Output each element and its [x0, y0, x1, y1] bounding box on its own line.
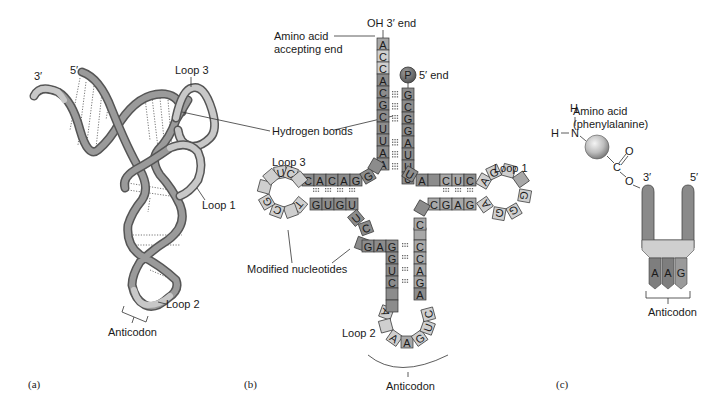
t-loop-nt-4: G: [517, 189, 531, 203]
svg-text:A: A: [379, 39, 387, 51]
panel-b-loop1-label: Loop 1: [494, 162, 528, 174]
anticodon-base-2: A: [664, 267, 672, 279]
anticodon-stem-right-nt-4: A: [414, 288, 426, 301]
svg-text:A: A: [416, 289, 424, 301]
panel-a-loop1-label: Loop 1: [202, 199, 236, 211]
hydrogen-bonds-label: Hydrogen bonds: [272, 125, 353, 137]
svg-text:A: A: [418, 175, 426, 187]
panel-a-3d-structure: 3′ 5′ Loop 3 Loop 1 Loop 2 Anticodon (a): [28, 64, 236, 391]
t-loop-nt-6: G: [492, 206, 506, 220]
acceptor-5prime-nt-5: U: [402, 148, 414, 161]
t-arm-top-nt-2: C: [440, 174, 452, 187]
anticodon-stem-right-nt-0: C: [414, 240, 426, 253]
anticodon-stem-left-nt-4: [386, 288, 398, 300]
amino-acid-label-2: (phenylalanine): [573, 118, 648, 130]
t-arm-bottom-nt-1: G: [440, 198, 452, 211]
svg-text:U: U: [348, 199, 356, 211]
anticodon-stem-right-nt-3: G: [414, 276, 426, 289]
anticodon-loop-nt-3: A: [401, 336, 413, 349]
d-arm-top-nt-4: G: [350, 174, 362, 187]
anticodon-loop-nt-6: C: [421, 307, 436, 322]
svg-text:A: A: [416, 265, 424, 277]
d-arm-bottom-nt-1: U: [322, 198, 334, 211]
panel-a-loop3-label: Loop 3: [175, 64, 209, 76]
phosphate-label: P: [404, 69, 411, 81]
acceptor-5prime-nt-0: G: [402, 88, 414, 101]
acceptor-5prime-nt-3: G: [402, 124, 414, 137]
d-arm-bottom-nt-0: G: [310, 198, 322, 211]
panel-b-cloverleaf: ACCACGCUUAAGCGGAUUUCACAGGGUGUUCTCGACUCUC…: [257, 38, 531, 349]
svg-text:G: G: [466, 199, 475, 211]
amino-acid-sphere: [585, 135, 609, 159]
t-loop-nt-7: A: [477, 196, 494, 213]
t-arm-top-nt-3: U: [452, 174, 464, 187]
trna-body-shape: [642, 185, 694, 248]
panel-b-anticodon-label: Anticodon: [386, 380, 435, 392]
variable-nt-g: G: [362, 240, 374, 253]
svg-text:G: G: [312, 199, 321, 211]
anticodon-stem-left-bottom: [386, 300, 398, 312]
atom-h-top: H: [570, 102, 578, 114]
d-arm-bottom-nt-2: G: [334, 198, 346, 211]
panel-a-label: (a): [28, 378, 41, 391]
svg-text:U: U: [404, 149, 412, 161]
svg-text:C: C: [379, 63, 387, 75]
t-arm-bottom-nt-0: C: [428, 198, 440, 211]
panel-c-anticodon-label: Anticodon: [648, 306, 697, 318]
anticodon-stem-left-nt-0: G: [386, 240, 398, 253]
svg-text:C: C: [328, 175, 336, 187]
amino-acid-accepting-end-label-1: Amino acid: [274, 30, 328, 42]
svg-text:G: G: [442, 199, 451, 211]
svg-text:C: C: [379, 51, 387, 63]
svg-text:G: G: [507, 203, 520, 218]
svg-text:U: U: [388, 265, 396, 277]
acceptor-5prime-nt-2: G: [402, 112, 414, 125]
svg-text:U: U: [454, 175, 462, 187]
svg-text:G: G: [404, 113, 413, 125]
svg-text:A: A: [404, 137, 412, 149]
svg-text:G: G: [413, 331, 427, 346]
svg-text:A: A: [454, 199, 462, 211]
panel-a-5prime-label: 5′: [70, 64, 78, 76]
acceptor-3prime-nt-4: C: [377, 86, 389, 99]
atom-n: N: [571, 127, 579, 139]
anticodon-stem-left-nt-2: U: [386, 264, 398, 277]
trna-figure: 3′ 5′ Loop 3 Loop 1 Loop 2 Anticodon (a)…: [0, 0, 725, 410]
anticodon-loop-nt-2: A: [386, 330, 403, 347]
t-arm-bottom-nt-3: G: [464, 198, 476, 211]
acceptor-3prime-nt-5: G: [377, 98, 389, 111]
atom-h-left: H: [551, 127, 559, 139]
acceptor-3prime-nt-0: A: [377, 38, 389, 51]
svg-text:G: G: [379, 99, 388, 111]
svg-text:C: C: [442, 175, 450, 187]
panel-b-loop3-label: Loop 3: [272, 156, 306, 168]
svg-text:G: G: [336, 199, 345, 211]
amino-acid-accepting-end-label-2: accepting end: [274, 43, 343, 55]
acceptor-3prime-nt-3: A: [377, 74, 389, 87]
svg-text:A: A: [316, 175, 324, 187]
svg-text:C: C: [379, 87, 387, 99]
panel-c-3prime-label: 3′: [643, 171, 651, 183]
anticodon-loop-nt-1: [378, 318, 393, 333]
svg-text:C: C: [416, 253, 424, 265]
atom-o-double: O: [625, 145, 634, 157]
t-arm-bottom-nt-2: A: [452, 198, 464, 211]
variable-nt-a: A: [374, 240, 386, 253]
anticodon-stem-right-nt-1: C: [414, 252, 426, 265]
amino-acid-label-1: Amino acid: [573, 105, 627, 117]
anticodon-stem-left-nt-3: C: [386, 276, 398, 289]
acceptor-3prime-nt-7: U: [377, 122, 389, 135]
svg-text:A: A: [340, 175, 348, 187]
anticodon-stem-right-nt-2: A: [414, 264, 426, 277]
svg-text:G: G: [364, 241, 373, 253]
svg-text:U: U: [379, 135, 387, 147]
panel-a-loop2-label: Loop 2: [166, 298, 200, 310]
acceptor-3prime-nt-1: C: [377, 50, 389, 63]
svg-text:C: C: [404, 101, 412, 113]
panel-b-loop2-label: Loop 2: [342, 327, 376, 339]
acceptor-5prime-nt-1: C: [402, 100, 414, 113]
variable-nt-c: C: [358, 220, 374, 236]
panel-c-label: (c): [556, 378, 569, 391]
d-arm-top-nt-2: C: [326, 174, 338, 187]
panel-c-trna-symbol: Amino acid (phenylalanine) H H N C O O 3…: [551, 102, 698, 391]
